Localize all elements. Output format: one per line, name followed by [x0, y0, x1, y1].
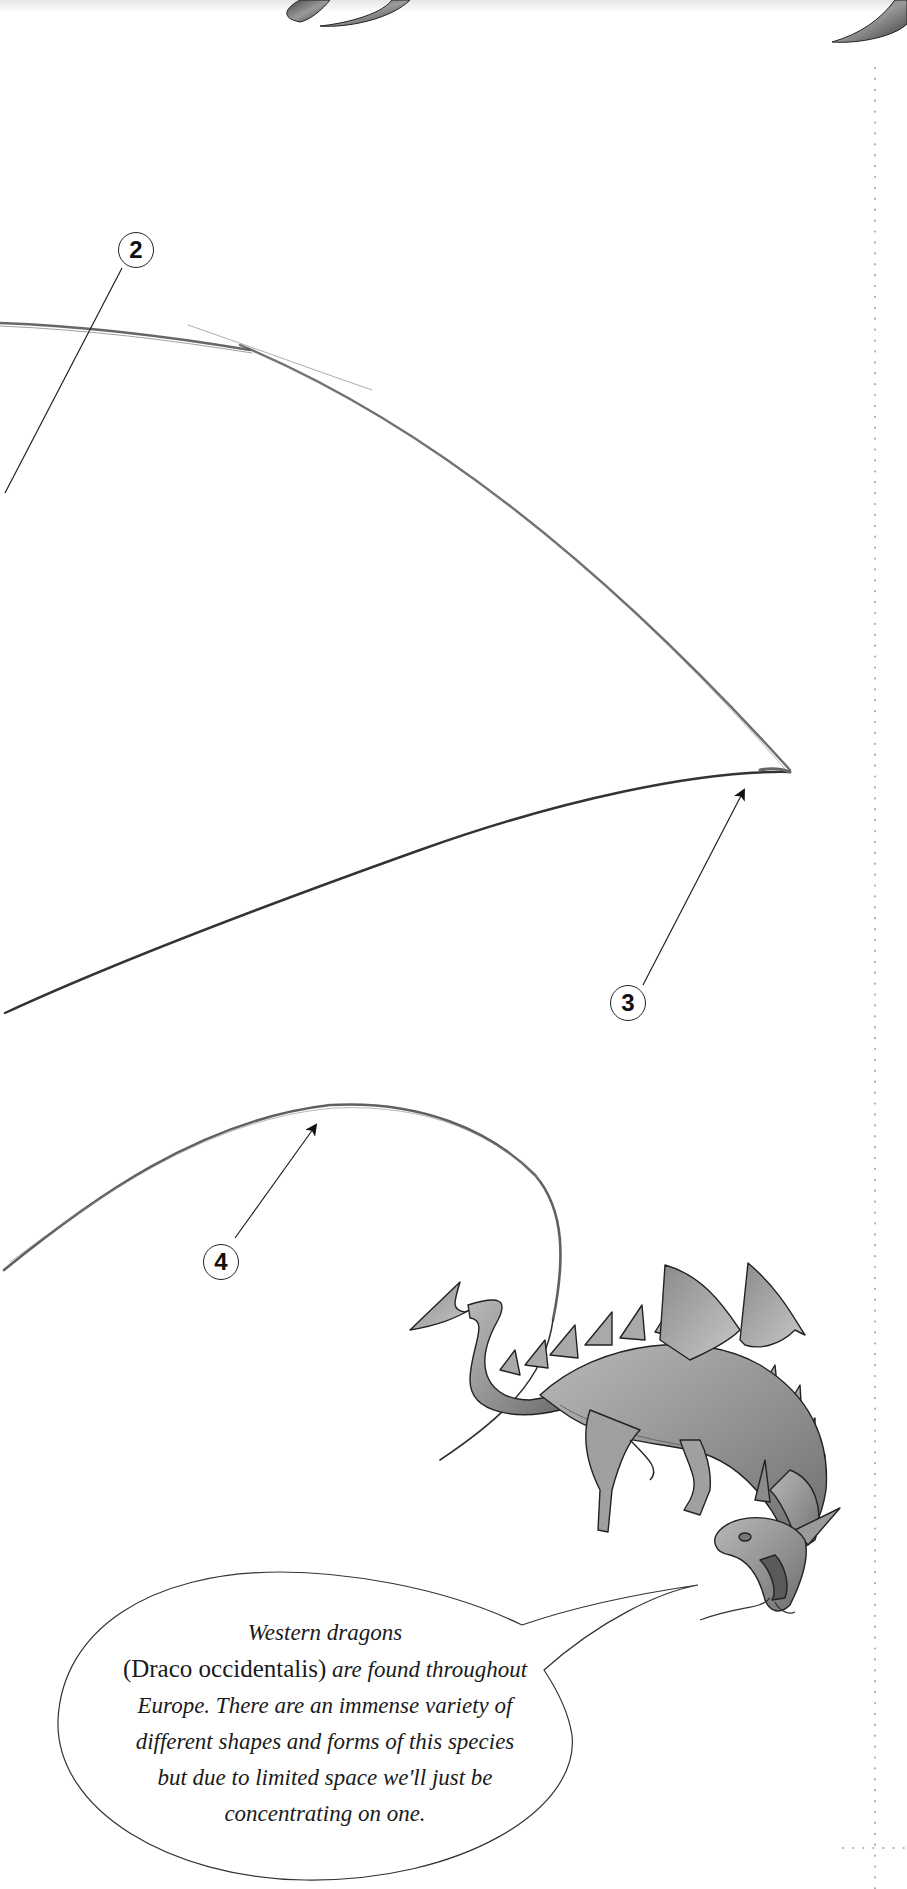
dragon-wing-right — [740, 1263, 805, 1347]
step-number: 2 — [129, 238, 142, 262]
wing-lower-edge — [5, 769, 790, 1013]
dragon-hind-leg — [586, 1410, 640, 1532]
dragon-head — [715, 1518, 807, 1611]
step-number: 4 — [214, 1250, 227, 1274]
bubble-line-1: Western dragons — [90, 1615, 560, 1651]
step-marker-4: 4 — [203, 1244, 239, 1280]
step-marker-2: 2 — [118, 232, 154, 268]
step-4-arrow — [235, 1125, 316, 1238]
dragon-illustration — [410, 1263, 840, 1620]
bubble-line-5: but due to limited space we'll just be — [90, 1760, 560, 1796]
step-number: 3 — [621, 991, 634, 1015]
bubble-line-3: Europe. There are an immense variety of — [90, 1688, 560, 1724]
bubble-line-6: concentrating on one. — [90, 1796, 560, 1832]
bubble-line-2-rest: are found throughout — [326, 1657, 527, 1682]
step-marker-3: 3 — [610, 985, 646, 1021]
speech-bubble-text: Western dragons (Draco occidentalis) are… — [90, 1615, 560, 1832]
wing-upper-edge — [0, 323, 790, 770]
step-3-arrow — [643, 790, 744, 985]
dragon-tail-fin — [410, 1282, 470, 1330]
bubble-line-4: different shapes and forms of this speci… — [90, 1724, 560, 1760]
step-2-pointer — [5, 268, 122, 493]
tutorial-page: 2 3 4 Western dragons (Draco occidentali… — [0, 0, 907, 1889]
bubble-line-2: (Draco occidentalis) are found throughou… — [90, 1651, 560, 1688]
dragon-wing-left — [660, 1265, 740, 1360]
body-tail-curve — [4, 1104, 560, 1460]
drawing-canvas — [0, 0, 907, 1889]
species-latin-name: (Draco occidentalis) — [123, 1655, 326, 1682]
